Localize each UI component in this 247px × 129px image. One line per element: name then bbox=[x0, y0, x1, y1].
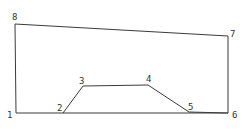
edge-4-5 bbox=[148, 85, 189, 112]
vertex-label-6: 6 bbox=[232, 110, 237, 120]
edges-group bbox=[15, 24, 228, 113]
edge-3-4 bbox=[83, 85, 148, 86]
vertex-label-8: 8 bbox=[12, 12, 17, 22]
polygon-diagram: 12345678 bbox=[0, 0, 247, 129]
vertex-label-3: 3 bbox=[79, 76, 84, 86]
labels-group: 12345678 bbox=[7, 12, 237, 120]
edge-8-1 bbox=[15, 24, 16, 113]
edge-7-8 bbox=[15, 24, 228, 36]
edge-2-3 bbox=[63, 86, 83, 113]
vertex-label-1: 1 bbox=[7, 110, 12, 120]
vertex-label-7: 7 bbox=[230, 29, 235, 39]
vertex-label-4: 4 bbox=[146, 74, 151, 84]
vertex-label-5: 5 bbox=[188, 102, 193, 112]
vertex-label-2: 2 bbox=[57, 103, 62, 113]
